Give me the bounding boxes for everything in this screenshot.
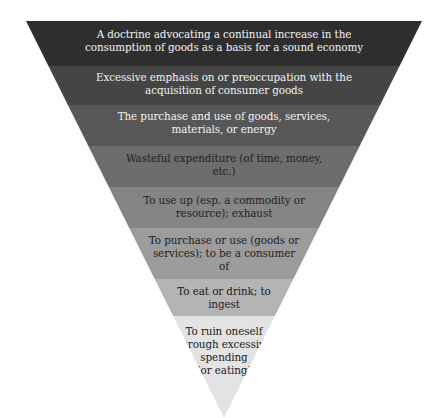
level-4-wasteful: Wasteful expenditure (of time, money, et…	[26, 146, 422, 187]
inverted-pyramid-diagram: A doctrine advocating a continual increa…	[26, 21, 422, 418]
level-8-text: To ruin oneself through excessive spendi…	[177, 325, 271, 377]
level-8-ruin: To ruin oneself through excessive spendi…	[26, 316, 422, 418]
level-7-eat-drink: To eat or drink; to ingest	[26, 279, 422, 316]
level-7-line-1: To eat or drink; to	[177, 285, 270, 298]
level-7-line-2: ingest	[177, 298, 270, 311]
level-5-text: To use up (esp. a commodity or resource)…	[143, 194, 305, 220]
level-8-line-4: (or eating)	[177, 364, 271, 377]
level-4-line-1: Wasteful expenditure (of time, money,	[126, 152, 322, 165]
level-8-line-1: To ruin oneself	[177, 325, 271, 338]
level-1-line-1: A doctrine advocating a continual increa…	[85, 28, 363, 41]
level-7-text: To eat or drink; to ingest	[177, 285, 270, 311]
level-5-line-2: resource); exhaust	[143, 207, 305, 220]
level-4-text: Wasteful expenditure (of time, money, et…	[126, 152, 322, 178]
level-3-line-1: The purchase and use of goods, services,	[118, 110, 331, 123]
level-6-line-2: services); to be a consumer	[149, 247, 299, 260]
level-8-line-2: through excessive	[177, 338, 271, 351]
level-2-emphasis: Excessive emphasis on or preoccupation w…	[26, 66, 422, 105]
level-1-line-2: consumption of goods as a basis for a so…	[85, 41, 363, 54]
level-3-text: The purchase and use of goods, services,…	[118, 110, 331, 136]
level-6-line-3: of	[149, 260, 299, 273]
level-4-line-2: etc.)	[126, 165, 322, 178]
level-1-doctrine: A doctrine advocating a continual increa…	[26, 21, 422, 66]
level-2-line-2: acquisition of consumer goods	[96, 84, 352, 97]
level-3-line-2: materials, or energy	[118, 123, 331, 136]
level-6-consumer: To purchase or use (goods or services); …	[26, 228, 422, 279]
level-1-text: A doctrine advocating a continual increa…	[85, 28, 363, 54]
level-3-purchase: The purchase and use of goods, services,…	[26, 105, 422, 146]
level-6-line-1: To purchase or use (goods or	[149, 234, 299, 247]
level-2-text: Excessive emphasis on or preoccupation w…	[96, 71, 352, 97]
level-6-text: To purchase or use (goods or services); …	[149, 234, 299, 273]
level-2-line-1: Excessive emphasis on or preoccupation w…	[96, 71, 352, 84]
level-8-line-3: spending	[177, 351, 271, 364]
level-5-use-up: To use up (esp. a commodity or resource)…	[26, 187, 422, 228]
level-5-line-1: To use up (esp. a commodity or	[143, 194, 305, 207]
